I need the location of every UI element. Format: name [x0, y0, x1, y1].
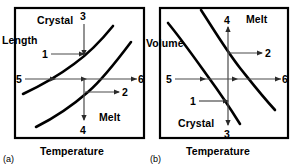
- panel-a: Length Temperature Crystal Melt (a) 1 2 …: [2, 8, 144, 164]
- panel-b-number-5: 5: [166, 73, 172, 85]
- panel-b-arrow-1: [199, 98, 229, 103]
- panel-a-arrow-4: [81, 79, 86, 121]
- panel-a-arrow-3: [81, 24, 86, 56]
- panel-a-y-axis-label: Length: [2, 34, 38, 46]
- panel-a-arrow-1: [51, 51, 85, 56]
- panel-a-tag: (a): [3, 154, 14, 164]
- panel-b-number-4: 4: [224, 14, 230, 26]
- panel-a-number-5: 5: [16, 73, 22, 85]
- panel-b-x-axis-label: Temperature: [186, 145, 250, 157]
- panel-b-tag: (b): [150, 154, 161, 164]
- panel-a-number-6: 6: [138, 73, 144, 85]
- panel-a-number-3: 3: [80, 10, 86, 22]
- panel-a-melt-label: Melt: [99, 111, 121, 123]
- panel-a-frame: [15, 8, 144, 138]
- panel-b-number-6: 6: [282, 73, 288, 85]
- panel-a-crystal-label: Crystal: [37, 14, 73, 26]
- panel-a-x-axis-label: Temperature: [40, 145, 104, 157]
- panel-b-number-1: 1: [190, 95, 196, 107]
- panel-a-number-4: 4: [80, 124, 86, 136]
- panel-a-number-1: 1: [42, 48, 48, 60]
- panel-b: Volume Temperature Melt Crystal (b) 1 2 …: [146, 8, 288, 164]
- panel-b-melt-label: Melt: [246, 13, 268, 25]
- panel-b-melt-curve: [201, 10, 275, 110]
- panel-a-arrow-5: [25, 76, 137, 81]
- panel-b-arrow-2: [228, 50, 263, 55]
- panel-b-crystal-label: Crystal: [178, 117, 214, 129]
- panel-a-number-2: 2: [122, 86, 128, 98]
- panel-b-number-3: 3: [224, 128, 230, 140]
- phase-diagram-figure: Length Temperature Crystal Melt (a) 1 2 …: [0, 0, 297, 165]
- panel-b-y-axis-label: Volume: [146, 37, 184, 49]
- panel-b-number-2: 2: [265, 47, 271, 59]
